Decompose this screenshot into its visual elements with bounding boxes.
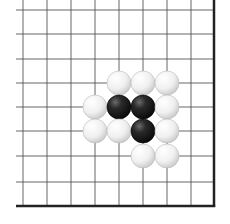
white-stone	[155, 119, 179, 143]
white-stone	[83, 119, 107, 143]
black-stone	[131, 95, 155, 119]
white-stone	[155, 144, 179, 168]
white-stone	[155, 71, 179, 95]
go-board	[0, 0, 230, 224]
black-stone	[107, 95, 131, 119]
white-stone	[131, 71, 155, 95]
white-stone	[107, 71, 131, 95]
white-stone	[107, 119, 131, 143]
stones	[83, 71, 179, 168]
white-stone	[131, 144, 155, 168]
white-stone	[83, 95, 107, 119]
black-stone	[131, 119, 155, 143]
white-stone	[155, 95, 179, 119]
